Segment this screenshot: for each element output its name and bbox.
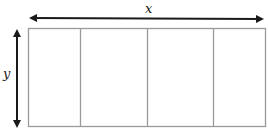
dimension-diagram: x y [0, 0, 268, 134]
height-label: y [2, 66, 11, 81]
width-arrow [31, 18, 262, 19]
width-label: x [145, 1, 153, 16]
